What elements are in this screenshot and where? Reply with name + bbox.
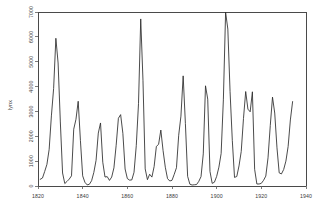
y-tick-label: 2000 xyxy=(28,130,34,142)
x-axis-tick-labels: 1820184018601880190019201940 xyxy=(32,193,312,199)
x-tick-label: 1880 xyxy=(166,193,178,199)
y-axis-title: lynx xyxy=(7,100,13,110)
x-tick-label: 1840 xyxy=(77,193,89,199)
series-group xyxy=(40,12,292,185)
x-tick-label: 1940 xyxy=(300,193,312,199)
y-tick-label: 7000 xyxy=(28,6,34,18)
y-axis-tick-labels: 01000200030004000500060007000 xyxy=(28,6,34,188)
axis-frame-box xyxy=(38,12,306,186)
y-tick-label: 0 xyxy=(28,184,34,187)
line-series-lynx xyxy=(40,12,292,185)
y-tick-label: 3000 xyxy=(28,105,34,117)
x-tick-label: 1820 xyxy=(32,193,44,199)
chart-canvas: 01000200030004000500060007000 1820184018… xyxy=(0,0,333,214)
y-tick-label: 5000 xyxy=(28,56,34,68)
y-tick-label: 4000 xyxy=(28,81,34,93)
y-tick-label: 1000 xyxy=(28,155,34,167)
x-tick-label: 1860 xyxy=(121,193,133,199)
x-tick-label: 1900 xyxy=(211,193,223,199)
lynx-timeseries-figure: 01000200030004000500060007000 1820184018… xyxy=(0,0,333,214)
plot-frame xyxy=(38,12,306,186)
x-tick-label: 1920 xyxy=(255,193,267,199)
y-tick-label: 6000 xyxy=(28,31,34,43)
